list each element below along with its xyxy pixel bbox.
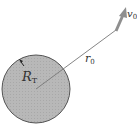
velocity-arrowhead-icon (119, 7, 127, 18)
velocity-vector-label: v0 (127, 8, 137, 21)
position-vector-label: r0 (85, 52, 95, 66)
orbit-diagram: RT r0 v0 (0, 0, 137, 137)
velocity-vector-shaft (116, 15, 123, 31)
